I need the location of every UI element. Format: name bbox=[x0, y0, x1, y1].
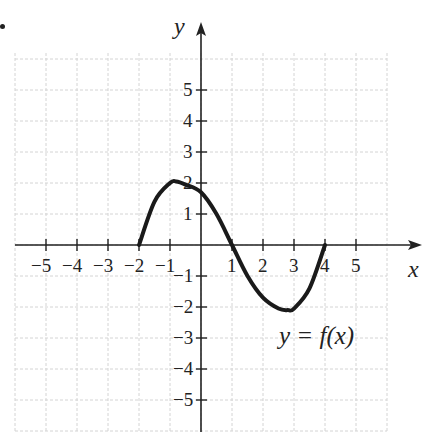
x-tick-label: 1 bbox=[227, 256, 237, 275]
function-graph bbox=[0, 0, 423, 432]
y-tick-label: −5 bbox=[173, 390, 193, 409]
y-tick-label: 2 bbox=[183, 173, 193, 192]
x-tick-label: −5 bbox=[31, 256, 51, 275]
curve-label: y = f(x) bbox=[279, 322, 354, 350]
y-tick-label: 5 bbox=[183, 80, 193, 99]
y-tick-label: −1 bbox=[173, 266, 193, 285]
y-tick-label: 1 bbox=[183, 204, 193, 223]
x-tick-label: −4 bbox=[62, 256, 82, 275]
y-tick-label: −3 bbox=[173, 328, 193, 347]
y-tick-label: −4 bbox=[173, 359, 193, 378]
x-tick-label: 2 bbox=[258, 256, 268, 275]
y-tick-label: −2 bbox=[173, 297, 193, 316]
x-tick-label: −3 bbox=[93, 256, 113, 275]
y-tick-label: 4 bbox=[183, 111, 193, 130]
x-axis-label: x bbox=[408, 257, 419, 281]
x-tick-label: 4 bbox=[320, 256, 330, 275]
x-tick-label: 3 bbox=[289, 256, 299, 275]
x-tick-label: −2 bbox=[124, 256, 144, 275]
bullet-marker bbox=[0, 24, 5, 29]
x-tick-label: 5 bbox=[351, 256, 361, 275]
y-axis-label: y bbox=[174, 14, 185, 38]
y-tick-label: 3 bbox=[183, 142, 193, 161]
